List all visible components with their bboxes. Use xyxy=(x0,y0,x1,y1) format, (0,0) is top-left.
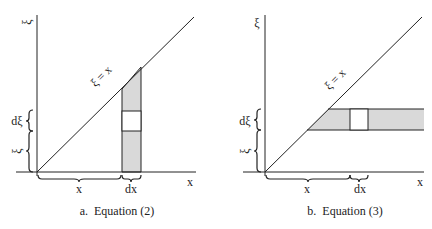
x-axis-label-a: x xyxy=(187,175,193,189)
caption-a: a. Equation (2) xyxy=(80,204,155,218)
brace-label-xi-b: ξ xyxy=(238,148,252,154)
x-axis-label-b: x xyxy=(417,175,423,189)
panel-a: ξ x ξ = x dξ ξ x dx a. Equation (2) xyxy=(10,15,196,218)
brace-label-dxi-a: dξ xyxy=(11,114,23,128)
brace-dxi-a xyxy=(26,110,33,131)
brace-xi-a xyxy=(26,131,33,172)
y-axis-label-b: ξ xyxy=(254,16,260,30)
brace-dx-b xyxy=(350,175,368,182)
diagonal-label-b: ξ = x xyxy=(322,66,349,93)
brace-label-x-b: x xyxy=(304,182,310,196)
diagonal-line-b xyxy=(265,17,422,172)
brace-xi-b xyxy=(254,130,261,172)
brace-label-x-a: x xyxy=(76,182,82,196)
caption-b: b. Equation (3) xyxy=(307,204,382,218)
diagram-canvas: ξ x ξ = x dξ ξ x dx a. Equation (2) ξ x … xyxy=(0,0,432,229)
brace-dx-a xyxy=(122,175,141,182)
panel-b: ξ x ξ = x dξ ξ x dx b. Equation (3) xyxy=(238,15,424,218)
brace-label-dx-b: dx xyxy=(354,182,366,196)
brace-label-dxi-b: dξ xyxy=(239,114,251,128)
brace-label-xi-a: ξ xyxy=(10,148,24,154)
element-box-a xyxy=(122,111,141,131)
diagonal-label-a: ξ = x xyxy=(88,63,115,90)
brace-dxi-b xyxy=(254,109,261,130)
brace-x-a xyxy=(38,175,121,182)
brace-label-dx-a: dx xyxy=(125,182,137,196)
diagonal-line-a xyxy=(37,17,194,172)
element-box-b xyxy=(350,109,368,130)
brace-x-b xyxy=(266,175,350,182)
y-axis-label-a: ξ xyxy=(20,19,34,25)
